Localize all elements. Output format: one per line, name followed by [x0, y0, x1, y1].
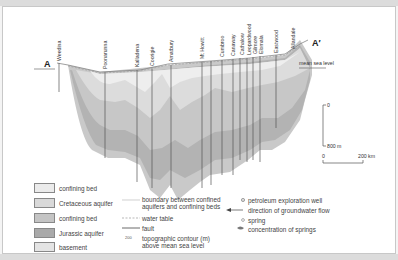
- horizontal-scale-right: 200 km: [358, 153, 375, 159]
- station-label: Cumbroo: [219, 36, 225, 57]
- horizontal-scale-left: 0: [322, 153, 325, 159]
- station-label: Elomala: [258, 35, 264, 54]
- legend-petroleum-well-label: petroleum exploration well: [248, 197, 322, 204]
- flow-arrow-icon: [226, 208, 243, 212]
- legend-groundwater-flow-label: direction of groundwater flow: [248, 207, 330, 214]
- legend-label: basement: [59, 244, 87, 251]
- swatch-basement: [34, 242, 55, 252]
- vertical-scale-bottom: 800 m: [327, 143, 341, 149]
- legend-spring-label: spring: [248, 217, 265, 224]
- vertical-scale-bar: [323, 105, 326, 146]
- station-label: Amatbury: [168, 39, 174, 62]
- contour-sample: 200: [125, 235, 132, 240]
- station-label: Eastwood: [273, 30, 279, 53]
- vertical-scale-top: 0: [327, 102, 330, 108]
- swatch-jurassic-aquifer: [34, 228, 55, 238]
- station-label: Allandale: [290, 28, 296, 49]
- legend-label: Cretaceous aquifer: [59, 200, 113, 207]
- station-label: Canaway: [230, 34, 236, 56]
- swatch-cretaceous-aquifer: [34, 198, 55, 208]
- swatch-confining-bed-mid: [34, 213, 55, 223]
- legend-boundary-label: boundary between confined aquifers and c…: [142, 196, 222, 210]
- legend-label: Jurassic aquifer: [59, 230, 104, 237]
- station-label: Poonarunna: [102, 41, 108, 69]
- mean-sea-level-label: mean sea level: [299, 60, 334, 66]
- springs-concentration-icon: [237, 227, 244, 230]
- legend-label: confining bed: [59, 185, 97, 192]
- legend-label: confining bed: [59, 215, 97, 222]
- station-label: Coorigie: [149, 47, 155, 66]
- section-start-label: A: [44, 59, 51, 69]
- legend-water-table-label: water table: [142, 215, 173, 222]
- petroleum-well-icon-dot: [242, 199, 243, 200]
- legend-contour-label: topographic contour (m) above mean sea l…: [142, 235, 220, 249]
- section-end-label: A′: [312, 38, 321, 48]
- station-label: Weedina: [56, 41, 62, 61]
- swatch-confining-bed-top: [34, 183, 55, 193]
- station-label: Kalladena: [134, 44, 140, 67]
- spring-icon: [242, 219, 245, 222]
- legend-fault-label: fault: [142, 225, 154, 232]
- station-label: Mt Howitt: [199, 37, 205, 59]
- legend-springs-concentration-label: concentration of springs: [248, 226, 316, 233]
- station-label: Cathalow: [239, 33, 245, 55]
- horizontal-scale-bar: [323, 160, 363, 163]
